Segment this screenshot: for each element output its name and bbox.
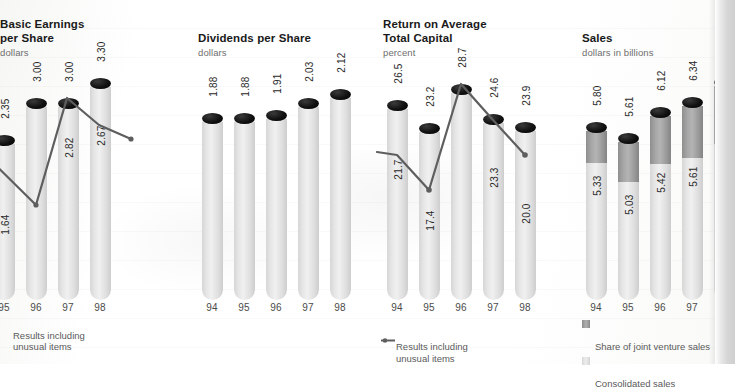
bar-consolidated-label: 5.33 <box>591 175 602 195</box>
joint-venture-segment <box>586 131 607 163</box>
bar-cap-icon <box>266 110 287 121</box>
line-marker-icon <box>381 322 395 327</box>
bar-consolidated-label: 5.03 <box>623 194 634 214</box>
bar-97: 2.03 <box>298 98 319 300</box>
plot-area: 2.35 1.64 3.00 3.00 2.82 3.30 2.67 <box>0 0 184 300</box>
bar-cap-icon <box>586 122 607 133</box>
page-edge-band <box>715 0 735 364</box>
bar-value-label: 2.03 <box>303 61 314 81</box>
consolidated-swatch-icon <box>582 357 590 365</box>
joint-venture-segment <box>618 142 639 182</box>
bar-value-label: 2.12 <box>335 52 346 72</box>
chart-return-on-average-total-capital: Return on Average Total Capital percent … <box>383 0 563 364</box>
line-series-overlay <box>0 0 184 300</box>
chart-basic-earnings-per-share: Basic Earnings per Share dollars 2.35 1.… <box>0 0 184 364</box>
chart-dividends-per-share: Dividends per Share dollars 1.88 1.88 1.… <box>198 0 373 364</box>
x-label-95: 95 <box>0 302 15 313</box>
bar-95: 1.88 <box>234 113 255 300</box>
legend-label: Results including unusual items <box>13 330 85 353</box>
joint-venture-segment <box>650 116 671 164</box>
plot-area: 1.88 1.88 1.91 2.03 2.12 <box>198 0 373 300</box>
x-label-96: 96 <box>25 302 47 313</box>
x-label-95: 95 <box>617 302 639 313</box>
legend-item: Consolidated sales <box>582 355 710 390</box>
x-label-94: 94 <box>386 302 408 313</box>
x-label-97: 97 <box>482 302 504 313</box>
joint-venture-swatch-icon <box>582 320 590 328</box>
x-axis-labels: 94 95 96 97 98 <box>383 302 563 318</box>
bar-total-label: 5.80 <box>591 85 602 105</box>
x-label-95: 95 <box>233 302 255 313</box>
bar-cap-icon <box>202 113 223 124</box>
x-label-96: 96 <box>265 302 287 313</box>
legend-item: Results including unusual items <box>0 318 85 353</box>
bar-value-label: 1.88 <box>239 76 250 96</box>
x-axis-labels: 94 95 96 97 98 <box>198 302 373 318</box>
bar-cap-icon <box>650 107 671 118</box>
legend-label: Consolidated sales <box>595 378 675 389</box>
bar-cap-icon <box>234 113 255 124</box>
x-label-98: 98 <box>329 302 351 313</box>
bar-total-label: 6.12 <box>655 70 666 90</box>
x-label-94: 94 <box>201 302 223 313</box>
x-label-97: 97 <box>681 302 703 313</box>
x-label-96: 96 <box>450 302 472 313</box>
bar-cap-icon <box>682 97 703 108</box>
x-label-95: 95 <box>418 302 440 313</box>
plot-area: 26.5 21.7 23.2 17.4 28.7 24.6 23.3 23.9 … <box>383 0 563 300</box>
bar-cap-icon <box>618 133 639 144</box>
x-axis-labels: 95 96 97 98 <box>0 302 184 318</box>
x-label-98: 98 <box>514 302 536 313</box>
bar-94: 5.80 5.33 <box>586 122 607 300</box>
legend-item: Share of joint venture sales <box>582 318 710 353</box>
bar-cap-icon <box>298 98 319 109</box>
bar-95: 5.61 5.03 <box>618 133 639 300</box>
bar-96: 6.12 5.42 <box>650 107 671 300</box>
bar-96: 1.91 <box>266 110 287 300</box>
x-label-98: 98 <box>89 302 111 313</box>
bar-total-label: 5.61 <box>623 96 634 116</box>
bar-consolidated-label: 5.42 <box>655 172 666 192</box>
x-label-97: 97 <box>57 302 79 313</box>
line-series-overlay <box>383 0 563 300</box>
bar-consolidated-label: 5.61 <box>687 166 698 186</box>
legend-label: Results including unusual items <box>396 341 468 364</box>
legend-item: Results including unusual items <box>383 318 468 364</box>
bar-value-label: 1.88 <box>207 76 218 96</box>
bar-97: 6.34 5.61 <box>682 97 703 300</box>
bar-value-label: 1.91 <box>271 73 282 93</box>
joint-venture-segment <box>682 106 703 158</box>
x-label-94: 94 <box>585 302 607 313</box>
legend-label: Share of joint venture sales <box>595 341 710 352</box>
chart-legend: Share of joint venture sales Consolidate… <box>582 318 710 391</box>
bar-total-label: 6.34 <box>687 60 698 80</box>
bar-cap-icon <box>330 89 351 100</box>
x-label-96: 96 <box>649 302 671 313</box>
bar-94: 1.88 <box>202 113 223 300</box>
x-label-97: 97 <box>297 302 319 313</box>
chart-legend: Results including unusual items <box>383 318 468 366</box>
chart-legend: Results including unusual items <box>0 318 85 355</box>
bar-98: 2.12 <box>330 89 351 300</box>
